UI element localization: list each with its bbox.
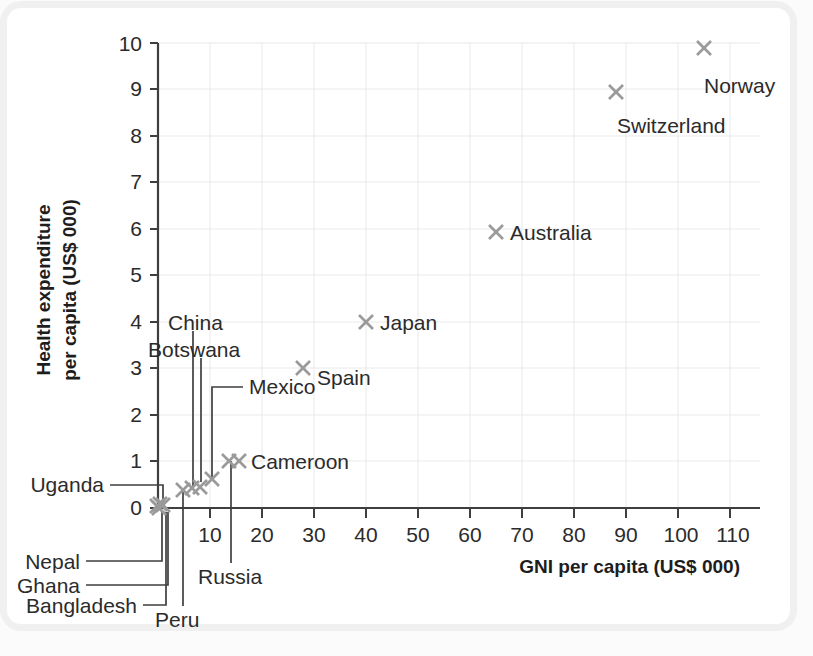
x-tick-label-100: 100 bbox=[663, 523, 698, 546]
point-label-bangladesh: Bangladesh bbox=[26, 594, 137, 617]
horizontal-gridlines bbox=[158, 43, 760, 461]
x-tick-label-70: 70 bbox=[510, 523, 533, 546]
point-label-peru: Peru bbox=[155, 608, 199, 631]
leader-line-mexico bbox=[212, 387, 243, 478]
x-tick-label-50: 50 bbox=[406, 523, 429, 546]
point-label-uganda: Uganda bbox=[30, 473, 104, 496]
y-tick-label-6: 6 bbox=[130, 217, 142, 240]
point-label-nepal: Nepal bbox=[25, 550, 80, 573]
y-axis-ticks bbox=[150, 43, 158, 508]
point-label-spain: Spain bbox=[317, 366, 371, 389]
x-tick-label-80: 80 bbox=[562, 523, 585, 546]
y-tick-label-3: 3 bbox=[130, 356, 142, 379]
leader-line-ghana bbox=[86, 512, 168, 585]
y-axis-title-line2: per capita (US$ 000) bbox=[59, 199, 80, 381]
y-tick-label-1: 1 bbox=[130, 449, 142, 472]
y-axis-title-line1: Health expenditure bbox=[33, 204, 54, 375]
x-axis-title: GNI per capita (US$ 000) bbox=[519, 556, 740, 577]
y-tick-label-10: 10 bbox=[119, 32, 142, 55]
x-tick-label-10: 10 bbox=[198, 523, 221, 546]
x-axis-ticks bbox=[210, 508, 730, 518]
point-label-mexico: Mexico bbox=[249, 375, 316, 398]
x-tick-label-110: 110 bbox=[716, 523, 749, 546]
y-tick-label-0: 0 bbox=[130, 496, 142, 519]
y-tick-label-2: 2 bbox=[130, 403, 142, 426]
point-label-australia: Australia bbox=[510, 221, 592, 244]
point-label-japan: Japan bbox=[380, 311, 437, 334]
y-axis-title: Health expenditure per capita (US$ 000) bbox=[33, 199, 80, 381]
x-tick-label-90: 90 bbox=[614, 523, 637, 546]
data-point-australia[interactable] bbox=[489, 225, 503, 239]
scatter-plot-container: 0 1 2 3 4 5 6 7 8 9 10 10 20 30 40 50 60… bbox=[0, 0, 813, 656]
y-tick-label-4: 4 bbox=[130, 310, 142, 333]
y-tick-label-5: 5 bbox=[130, 263, 142, 286]
chart-page: 0 1 2 3 4 5 6 7 8 9 10 10 20 30 40 50 60… bbox=[0, 0, 813, 656]
x-tick-label-20: 20 bbox=[250, 523, 273, 546]
point-label-botswana: Botswana bbox=[148, 338, 241, 361]
point-label-norway: Norway bbox=[704, 74, 776, 97]
point-label-china: China bbox=[168, 311, 223, 334]
point-label-russia: Russia bbox=[198, 565, 263, 588]
y-tick-label-7: 7 bbox=[130, 170, 142, 193]
data-point-switzerland[interactable] bbox=[609, 85, 623, 99]
data-point-markers bbox=[150, 41, 711, 515]
point-label-switzerland: Switzerland bbox=[617, 114, 726, 137]
y-tick-label-9: 9 bbox=[130, 77, 142, 100]
x-tick-label-60: 60 bbox=[458, 523, 481, 546]
data-point-labels: Norway Switzerland Australia Japan Spain… bbox=[17, 74, 776, 631]
x-tick-label-40: 40 bbox=[354, 523, 377, 546]
point-label-cameroon: Cameroon bbox=[251, 450, 349, 473]
leader-line-nepal bbox=[86, 512, 162, 561]
x-tick-label-30: 30 bbox=[302, 523, 325, 546]
x-axis-tick-labels: 10 20 30 40 50 60 70 80 90 100 110 bbox=[198, 523, 749, 546]
y-tick-label-8: 8 bbox=[130, 124, 142, 147]
scatter-plot-svg: 0 1 2 3 4 5 6 7 8 9 10 10 20 30 40 50 60… bbox=[0, 0, 813, 656]
y-axis-tick-labels: 0 1 2 3 4 5 6 7 8 9 10 bbox=[119, 32, 143, 519]
